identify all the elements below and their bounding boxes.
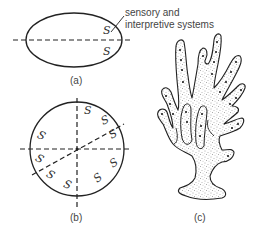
sensory-symbol-upper: S [103,24,111,37]
sensory-symbol: S [35,128,48,143]
sensory-symbol: S [44,167,57,182]
sensory-symbol: S [107,155,121,170]
center-point [76,148,79,151]
caption-a: (a) [70,75,82,86]
annotation-line-2: interpretive systems [125,19,214,30]
sensory-symbol: S [91,170,105,185]
sensory-symbol: S [106,126,119,141]
annotation-line-1: sensory and [125,7,179,18]
caption-c: (c) [194,212,206,223]
symmetry-figure: S S sensory and interpretive systems (a)… [0,0,262,237]
sensory-symbol: S [33,151,46,166]
panel-c: (c) [157,34,245,223]
sensory-symbol: S [62,177,74,192]
panel-b: S S S S S S S S S (b) [20,98,131,223]
caption-b: (b) [70,212,82,223]
sensory-symbol-lower: S [103,45,111,58]
sensory-symbol: S [84,104,92,117]
coral-inner-branch [181,104,192,144]
